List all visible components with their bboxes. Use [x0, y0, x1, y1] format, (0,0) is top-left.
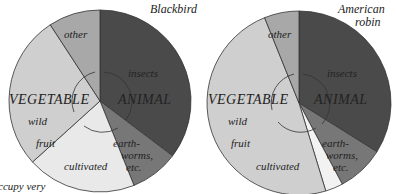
- label-earth-r: earth-: [322, 137, 349, 149]
- pie-charts: Blackbird other insects VEGETABLE ANIMAL…: [0, 0, 396, 194]
- label-vegetable-r: VEGETABLE: [208, 92, 288, 107]
- label-earth: earth-: [113, 137, 140, 149]
- label-vegetable: VEGETABLE: [9, 92, 89, 107]
- label-worms: worms,: [121, 149, 153, 161]
- label-fruit-r: fruit: [231, 137, 251, 149]
- title-robin: robin: [355, 15, 381, 29]
- label-wild-r: wild: [228, 115, 247, 127]
- label-etc: etc.: [126, 161, 142, 173]
- label-other: other: [64, 28, 88, 40]
- label-animal-r: ANIMAL: [313, 92, 368, 107]
- label-insects: insects: [128, 67, 158, 79]
- title-blackbird: Blackbird: [150, 2, 198, 16]
- label-cultivated: cultivated: [64, 160, 108, 172]
- label-fruit: fruit: [36, 137, 56, 149]
- label-other-r: other: [268, 28, 292, 40]
- label-animal: ANIMAL: [117, 92, 172, 107]
- caption-fragment: ccupy very: [0, 180, 45, 192]
- label-wild: wild: [28, 115, 47, 127]
- title-american: American: [337, 2, 385, 16]
- label-worms-r: worms,: [326, 149, 358, 161]
- label-cultivated-r: cultivated: [256, 160, 300, 172]
- label-etc-r: etc.: [333, 161, 349, 173]
- label-insects-r: insects: [327, 67, 357, 79]
